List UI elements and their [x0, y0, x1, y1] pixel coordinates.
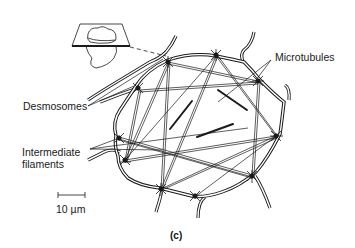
intermediate-filaments-label-line2: filaments	[22, 158, 64, 170]
neighbor-membranes	[88, 32, 289, 218]
cell-cytoskeleton-diagram	[0, 0, 355, 248]
desmosomes-label: Desmosomes	[23, 100, 87, 112]
intermediate-filaments-label-line1: Intermediate	[22, 146, 80, 158]
scale-bar	[58, 192, 85, 198]
panel-label: (c)	[170, 230, 182, 241]
microtubules-label: Microtubules	[275, 51, 335, 63]
scale-bar-label: 10 µm	[56, 203, 85, 215]
